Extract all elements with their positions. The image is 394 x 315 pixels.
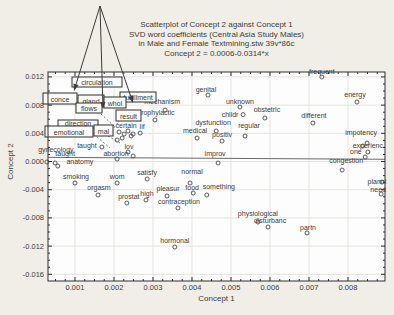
- point-label-lov: lov: [125, 143, 134, 150]
- boxed-label-mal: mal: [98, 128, 110, 135]
- boxed-label-flows: flows: [81, 105, 97, 112]
- point-label-obstetric: obstetric: [254, 106, 281, 113]
- point-label-need: need: [370, 186, 386, 193]
- point-label-something: something: [203, 183, 235, 191]
- boxed-label-circulation: circulation: [81, 79, 113, 86]
- scatterplot-canvas: 0.0010.0020.0030.0040.0050.0060.0070.008…: [0, 0, 394, 315]
- point-label-satisfy: satisfy: [137, 169, 157, 177]
- boxed-label-conce: conce: [51, 96, 70, 103]
- point-label-different: different: [301, 112, 326, 119]
- boxed-label-whol: whol: [107, 100, 123, 107]
- boxed-label-direction: direction: [65, 120, 92, 127]
- point-label-contraception: contraception: [158, 198, 200, 206]
- statistica-scatterplot-window: Scatterplot of Concept 2 against Concept…: [0, 0, 394, 315]
- point-label-pleasur: pleasur: [157, 185, 181, 193]
- boxed-label-result: result: [120, 113, 137, 120]
- point-label-planni: planni: [368, 178, 387, 186]
- svg-text:0.004: 0.004: [183, 283, 202, 292]
- point-label-orgasm: orgasm: [87, 184, 111, 192]
- point-label-medical: medical: [183, 127, 208, 134]
- svg-text:0.001: 0.001: [66, 283, 85, 292]
- point-label-regular: regular: [238, 122, 260, 130]
- point-label-genital: genital: [196, 86, 217, 94]
- point-label-high: high: [140, 190, 153, 198]
- point-label-energy: energy: [344, 91, 366, 99]
- svg-text:0.005: 0.005: [222, 283, 241, 292]
- boxed-label-fulfillment: fulfillment: [123, 94, 153, 101]
- point-label-normal: normal: [181, 168, 203, 175]
- point-label-anatomy: anatomy: [66, 158, 93, 166]
- svg-text:0.004: 0.004: [25, 129, 44, 138]
- point-label-hormonal: hormonal: [160, 237, 190, 244]
- point-label-impotency: impotency: [345, 129, 377, 137]
- svg-text:-0.012: -0.012: [23, 242, 44, 251]
- point-label-taught: taught: [77, 142, 97, 150]
- point-label-partn: partn: [300, 224, 316, 232]
- svg-text:0.000: 0.000: [25, 157, 44, 166]
- point-label-smoking: smoking: [63, 173, 89, 181]
- svg-text:0.012: 0.012: [25, 72, 44, 81]
- svg-text:0.007: 0.007: [300, 283, 319, 292]
- svg-text:0.006: 0.006: [261, 283, 280, 292]
- point-label-disturbanc: disturbanc: [254, 217, 287, 224]
- x-axis-label: Concept 1: [48, 294, 385, 303]
- point-label-positiv: positiv: [212, 131, 232, 139]
- svg-text:0.002: 0.002: [105, 283, 124, 292]
- svg-text:0.003: 0.003: [144, 283, 163, 292]
- svg-text:-0.016: -0.016: [23, 270, 44, 279]
- point-label-prophylactic: prophylactic: [137, 109, 175, 117]
- point-label-unknown: unknown: [226, 98, 254, 105]
- point-label-one: one: [350, 148, 362, 155]
- point-label-congestion: congestion: [329, 157, 363, 165]
- point-label-food: food: [185, 184, 199, 191]
- point-label-prostat: prostat: [118, 193, 139, 201]
- point-label-certain: certain: [116, 122, 137, 129]
- svg-text:-0.008: -0.008: [23, 213, 44, 222]
- point-label-lif: lif: [140, 123, 145, 130]
- svg-text:-0.004: -0.004: [23, 185, 44, 194]
- point-label-abortion: abortion: [103, 150, 128, 157]
- boxed-label-emotional: emotional: [54, 129, 85, 136]
- point-label-childr: childr: [222, 111, 239, 118]
- point-label-wom: wom: [109, 173, 125, 180]
- point-label-improv: improv: [205, 150, 227, 158]
- point-label-taught: taught: [55, 150, 75, 158]
- svg-text:0.008: 0.008: [339, 283, 358, 292]
- svg-text:0.008: 0.008: [25, 101, 44, 110]
- point-label-dysfunction: dysfunction: [195, 119, 231, 127]
